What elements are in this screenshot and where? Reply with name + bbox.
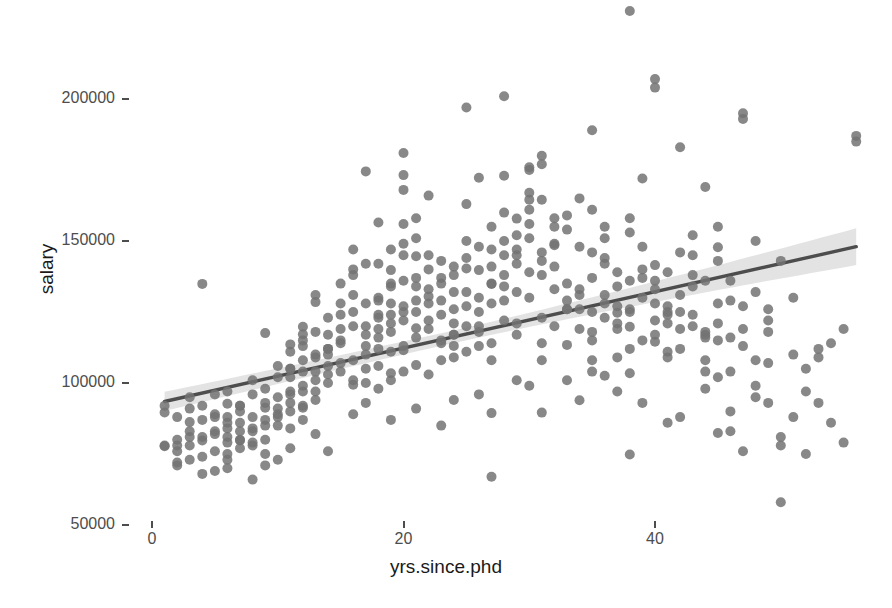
data-point (273, 412, 283, 422)
data-point (222, 438, 232, 448)
data-point (751, 392, 761, 402)
data-point (436, 421, 446, 431)
data-point (675, 324, 685, 334)
data-point (700, 384, 710, 394)
data-point (348, 245, 358, 255)
data-point (776, 497, 786, 507)
data-point (197, 415, 207, 425)
data-point (373, 313, 383, 323)
data-point (562, 304, 572, 314)
data-point (323, 330, 333, 340)
data-point (512, 318, 522, 328)
data-point (788, 350, 798, 360)
data-point (562, 279, 572, 289)
data-point (222, 399, 232, 409)
data-point (386, 245, 396, 255)
data-point (688, 310, 698, 320)
data-point (524, 205, 534, 215)
data-point (348, 307, 358, 317)
data-point (424, 284, 434, 294)
data-point (524, 381, 534, 391)
data-point (424, 250, 434, 260)
data-point (311, 429, 321, 439)
data-point (399, 316, 409, 326)
data-point (411, 333, 421, 343)
data-point (474, 293, 484, 303)
data-point (461, 287, 471, 297)
data-point (210, 389, 220, 399)
data-point (549, 321, 559, 331)
data-point (575, 242, 585, 252)
data-point (713, 335, 723, 345)
data-point (675, 290, 685, 300)
data-point (487, 472, 497, 482)
data-point (700, 182, 710, 192)
y-axis-title: salary (36, 199, 58, 339)
data-point (172, 458, 182, 468)
data-point (373, 324, 383, 334)
data-point (273, 455, 283, 465)
data-point (839, 438, 849, 448)
data-point (399, 219, 409, 229)
data-point (248, 375, 258, 385)
data-point (725, 296, 735, 306)
data-point (587, 125, 597, 135)
data-point (600, 313, 610, 323)
data-point (336, 324, 346, 334)
data-point (197, 469, 207, 479)
data-point (172, 412, 182, 422)
data-point (399, 367, 409, 377)
data-point (487, 279, 497, 289)
data-point (562, 210, 572, 220)
data-point (298, 355, 308, 365)
data-point (549, 213, 559, 223)
data-point (399, 239, 409, 249)
data-point (575, 193, 585, 203)
data-point (562, 225, 572, 235)
data-point (461, 321, 471, 331)
data-point (424, 191, 434, 201)
data-point (637, 335, 647, 345)
data-point (361, 364, 371, 374)
data-point (411, 251, 421, 261)
data-point (600, 299, 610, 309)
data-point (650, 260, 660, 270)
data-point (311, 367, 321, 377)
data-point (411, 404, 421, 414)
data-point (373, 333, 383, 343)
data-point (637, 398, 647, 408)
data-point (625, 276, 635, 286)
data-point (537, 270, 547, 280)
data-point (675, 142, 685, 152)
y-tick-label: 100000 (25, 373, 115, 391)
data-point (512, 375, 522, 385)
data-point (725, 276, 735, 286)
data-point (688, 281, 698, 291)
data-point (512, 330, 522, 340)
data-point (386, 415, 396, 425)
data-point (751, 381, 761, 391)
data-point (738, 341, 748, 351)
data-point (587, 355, 597, 365)
data-point (801, 364, 811, 374)
data-point (436, 256, 446, 266)
data-point (424, 264, 434, 274)
data-point (298, 367, 308, 377)
data-point (348, 290, 358, 300)
data-point (461, 253, 471, 263)
data-point (373, 259, 383, 269)
data-point (763, 327, 773, 337)
data-point (713, 299, 723, 309)
data-point (373, 344, 383, 354)
data-point (562, 340, 572, 350)
data-point (185, 417, 195, 427)
x-tick-label: 40 (625, 530, 685, 548)
data-point (839, 324, 849, 334)
data-point (738, 324, 748, 334)
data-point (449, 287, 459, 297)
data-point (512, 259, 522, 269)
data-point (637, 293, 647, 303)
data-point (210, 466, 220, 476)
y-tick-mark (122, 240, 129, 242)
data-point (826, 418, 836, 428)
